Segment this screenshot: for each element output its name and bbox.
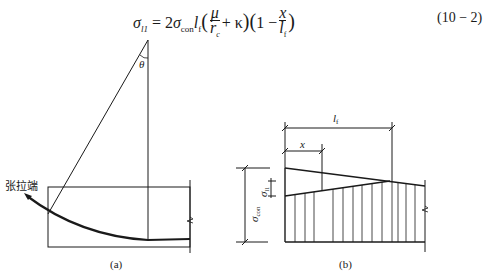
diagram-a: [24, 40, 193, 253]
beam-outline: [48, 187, 190, 247]
x-label: x: [299, 138, 305, 150]
figure-canvas: θ 张拉端 (a): [0, 0, 483, 277]
angle-theta-label: θ: [139, 58, 145, 70]
tendon-curve: [27, 196, 190, 240]
lf-label: lf: [333, 112, 339, 126]
caption-b: (b): [339, 258, 352, 271]
caption-a: (a): [110, 258, 123, 271]
radius-diagonal-line: [48, 40, 148, 214]
sigma-con-top-line: [285, 168, 425, 186]
tension-end-label: 张拉端: [5, 179, 38, 193]
stress-hatching: [295, 181, 415, 242]
sigma-con-label: σcon: [248, 206, 262, 222]
effective-stress-line: [285, 181, 390, 196]
sigma-l1-label: σl1: [257, 187, 270, 197]
